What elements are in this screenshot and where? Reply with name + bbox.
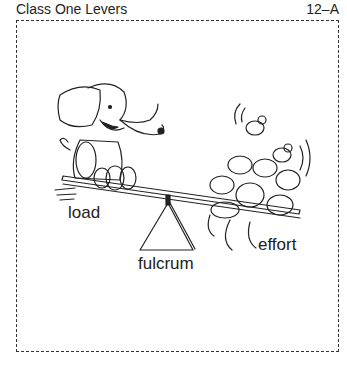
lever-illustration — [0, 0, 347, 376]
effort-label: effort — [258, 235, 296, 255]
load-label: load — [68, 203, 100, 223]
fulcrum-label: fulcrum — [138, 254, 194, 274]
fulcrum-triangle-icon — [140, 195, 195, 250]
elephant-icon — [55, 84, 164, 200]
mice-pile-icon — [208, 104, 310, 250]
